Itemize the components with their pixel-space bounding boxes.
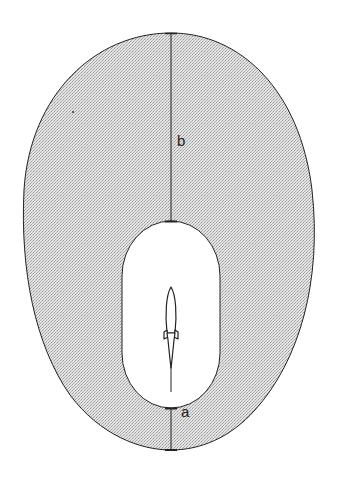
speck	[72, 111, 74, 113]
diagram-canvas: b a	[0, 0, 339, 478]
label-a: a	[181, 403, 190, 420]
label-b: b	[177, 132, 185, 149]
